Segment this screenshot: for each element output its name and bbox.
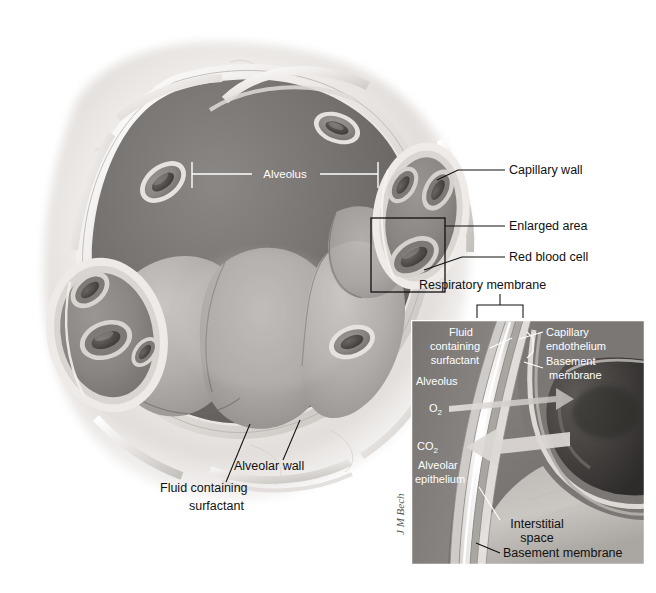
label-inset-capillary-endothelium-line1: Capillary — [546, 326, 589, 338]
lobe-sheen — [175, 250, 355, 390]
figure-canvas: Alveolus Capillary wall Enlarged area Re… — [0, 0, 656, 593]
inset-panel: Fluid containing surfactant Alveolus O2 … — [411, 320, 645, 565]
label-enlarged-area: Enlarged area — [509, 219, 588, 233]
alveolus-respiratory-membrane-figure: Alveolus Capillary wall Enlarged area Re… — [0, 0, 656, 593]
label-alveolar-wall: Alveolar wall — [234, 459, 304, 473]
artist-signature: J M Bech — [394, 493, 406, 535]
label-respiratory-membrane: Respiratory membrane — [419, 278, 546, 292]
label-inset-alveolar-epithelium-line1: Alveolar — [418, 459, 458, 471]
label-inset-interstitial-line1: Interstitial — [510, 517, 564, 531]
label-inset-capillary-endothelium-line2: endothelium — [546, 340, 606, 352]
label-inset-alveolar-epithelium-line2: epithelium — [415, 473, 465, 485]
label-inset-fluid-line2: containing — [430, 340, 480, 352]
label-fluid-containing-line1: Fluid containing — [160, 481, 248, 495]
label-inset-alveolus: Alveolus — [416, 375, 458, 387]
label-inset-fluid-line3: surfactant — [431, 354, 479, 366]
label-fluid-containing-line2: surfactant — [189, 499, 244, 513]
label-inset-fluid-line1: Fluid — [449, 326, 473, 338]
label-inset-interstitial-line2: space — [520, 531, 553, 545]
label-capillary-wall: Capillary wall — [509, 163, 583, 177]
label-alveolus-center: Alveolus — [263, 168, 307, 180]
label-inset-basement-membrane-line1: Basement — [546, 355, 596, 367]
label-inset-basement-membrane-bottom: Basement membrane — [503, 546, 623, 560]
label-inset-basement-membrane-line2: membrane — [549, 369, 602, 381]
label-red-blood-cell: Red blood cell — [509, 250, 588, 264]
